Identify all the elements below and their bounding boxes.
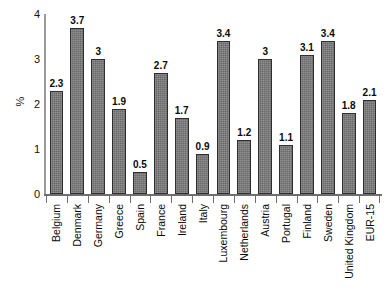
x-tick-label: Austria bbox=[260, 204, 271, 237]
x-tick-label: Ireland bbox=[176, 204, 187, 236]
x-tick-mark bbox=[88, 196, 89, 203]
bar-group: 0.5 bbox=[133, 14, 147, 194]
x-tick-label: Greece bbox=[114, 204, 125, 238]
x-tick-label-slot: Luxembourg bbox=[213, 204, 234, 298]
x-tick-mark bbox=[255, 196, 256, 203]
bar[interactable] bbox=[342, 113, 356, 194]
x-tick-label: EUR-15 bbox=[364, 204, 375, 241]
x-tick-mark bbox=[130, 196, 131, 203]
x-tick-label: Spain bbox=[134, 204, 145, 231]
bar-value-label: 1.7 bbox=[166, 106, 198, 116]
bar[interactable] bbox=[300, 55, 314, 195]
bar-group: 1.7 bbox=[175, 14, 189, 194]
x-tick-label-slot: Netherlands bbox=[234, 204, 255, 298]
bar[interactable] bbox=[279, 145, 293, 195]
bar[interactable] bbox=[154, 73, 168, 195]
x-tick-label-slot: Ireland bbox=[171, 204, 192, 298]
x-tick-label-slot: Belgium bbox=[46, 204, 67, 298]
y-tick-label: 2 bbox=[20, 99, 40, 110]
plot-area: 2.33.731.90.52.71.70.93.41.231.13.13.41.… bbox=[46, 14, 380, 194]
x-tick-label: Belgium bbox=[51, 204, 62, 242]
x-tick-label-slot: United Kingdom bbox=[338, 204, 359, 298]
bar-value-label: 3.4 bbox=[312, 29, 344, 39]
x-tick-mark bbox=[379, 196, 380, 203]
x-tick-label-slot: Finland bbox=[297, 204, 318, 298]
bar-value-label: 1.8 bbox=[333, 101, 365, 111]
x-tick-label: United Kingdom bbox=[343, 204, 354, 279]
bar-group: 3.7 bbox=[70, 14, 84, 194]
x-tick-mark bbox=[192, 196, 193, 203]
bar[interactable] bbox=[363, 100, 377, 195]
x-tick-label-slot: Denmark bbox=[67, 204, 88, 298]
bar[interactable] bbox=[321, 41, 335, 194]
x-tick-label-slot: Spain bbox=[130, 204, 151, 298]
bar-value-label: 3.4 bbox=[208, 29, 240, 39]
bar-value-label: 2.1 bbox=[354, 88, 386, 98]
bar-value-label: 0.5 bbox=[124, 160, 156, 170]
bar-group: 3.1 bbox=[300, 14, 314, 194]
bar-value-label: 3 bbox=[249, 47, 281, 57]
bar-chart: % 01234 2.33.731.90.52.71.70.93.41.231.1… bbox=[0, 0, 390, 298]
x-tick-label: Netherlands bbox=[239, 204, 250, 261]
bar-value-label: 1.2 bbox=[228, 128, 260, 138]
bar-value-label: 1.9 bbox=[103, 97, 135, 107]
bar-group: 1.8 bbox=[342, 14, 356, 194]
x-tick-label-slot: Greece bbox=[109, 204, 130, 298]
bar[interactable] bbox=[50, 91, 64, 195]
y-tick-label: 4 bbox=[20, 9, 40, 20]
x-tick-mark bbox=[338, 196, 339, 203]
x-tick-mark bbox=[213, 196, 214, 203]
x-tick-mark bbox=[109, 196, 110, 203]
x-tick-mark bbox=[171, 196, 172, 203]
x-axis-ticks bbox=[46, 196, 380, 203]
y-tick-label: 3 bbox=[20, 54, 40, 65]
bar[interactable] bbox=[217, 41, 231, 194]
x-tick-label: Portugal bbox=[281, 204, 292, 243]
bar[interactable] bbox=[112, 109, 126, 195]
bar-value-label: 0.9 bbox=[187, 142, 219, 152]
bar-value-label: 1.1 bbox=[270, 133, 302, 143]
bar[interactable] bbox=[133, 172, 147, 195]
bar-group: 0.9 bbox=[196, 14, 210, 194]
x-tick-label-slot: Austria bbox=[255, 204, 276, 298]
bar-value-label: 3.7 bbox=[61, 16, 93, 26]
bar[interactable] bbox=[196, 154, 210, 195]
bar-group: 2.1 bbox=[363, 14, 377, 194]
x-tick-label-slot: Germany bbox=[88, 204, 109, 298]
x-axis-tick-labels: BelgiumDenmarkGermanyGreeceSpainFranceIr… bbox=[46, 204, 380, 298]
x-tick-mark bbox=[297, 196, 298, 203]
x-tick-label: Italy bbox=[197, 204, 208, 223]
x-tick-label: Sweden bbox=[322, 204, 333, 242]
x-tick-mark bbox=[359, 196, 360, 203]
x-tick-label: Luxembourg bbox=[218, 204, 229, 262]
bar[interactable] bbox=[175, 118, 189, 195]
x-tick-mark bbox=[317, 196, 318, 203]
bar[interactable] bbox=[258, 59, 272, 194]
x-tick-label: Denmark bbox=[72, 204, 83, 247]
bar-group: 1.2 bbox=[237, 14, 251, 194]
x-tick-mark bbox=[276, 196, 277, 203]
bar[interactable] bbox=[91, 59, 105, 194]
x-tick-label: Germany bbox=[93, 204, 104, 247]
x-tick-label: France bbox=[155, 204, 166, 237]
bar-value-label: 2.7 bbox=[145, 61, 177, 71]
bar-group: 2.3 bbox=[50, 14, 64, 194]
x-tick-mark bbox=[67, 196, 68, 203]
bar-value-label: 3 bbox=[82, 47, 114, 57]
x-tick-label-slot: Italy bbox=[192, 204, 213, 298]
bar-group: 1.1 bbox=[279, 14, 293, 194]
bar[interactable] bbox=[237, 140, 251, 194]
x-tick-mark bbox=[46, 196, 47, 203]
x-tick-mark bbox=[150, 196, 151, 203]
bar-group: 3 bbox=[258, 14, 272, 194]
y-tick-label: 1 bbox=[20, 144, 40, 155]
y-tick-label: 0 bbox=[20, 189, 40, 200]
x-tick-label: Finland bbox=[301, 204, 312, 238]
x-tick-label-slot: EUR-15 bbox=[359, 204, 380, 298]
bar-value-label: 3.1 bbox=[291, 43, 323, 53]
x-tick-label-slot: France bbox=[150, 204, 171, 298]
bar-value-label: 2.3 bbox=[41, 79, 73, 89]
x-tick-mark bbox=[234, 196, 235, 203]
x-tick-label-slot: Portugal bbox=[276, 204, 297, 298]
bar-group: 3.4 bbox=[217, 14, 231, 194]
